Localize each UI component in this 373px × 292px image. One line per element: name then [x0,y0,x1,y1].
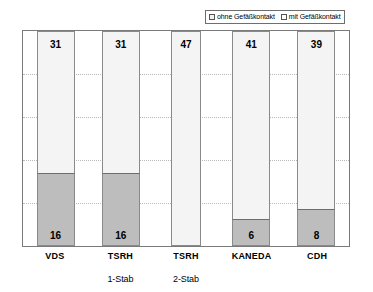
x-axis-tick-sublabel: 2-Stab [153,273,219,285]
bar-segment-ohne-gefasskontakt[interactable]: 41 [232,31,270,219]
legend-swatch-dotted-icon [209,14,215,20]
bar-segment-mit-gefasskontakt[interactable]: 8 [297,209,335,246]
bar-slot-kaneda: 41 6 [219,31,284,246]
stacked-bar[interactable]: 39 8 [297,31,335,246]
stacked-bar[interactable]: 41 6 [232,31,270,246]
bar-value-label: 8 [298,230,334,241]
stacked-bar[interactable]: 47 [171,31,201,246]
x-axis-tick-sublabel: 1-Stab [88,273,154,285]
bar-segment-ohne-gefasskontakt[interactable]: 31 [37,31,75,173]
bar-value-label: 31 [38,39,74,50]
legend-entry-ohne-gefasskontakt: ohne Gefäßkontakt [209,13,275,21]
legend-swatch-plain-icon [281,14,287,20]
legend-label: ohne Gefäßkontakt [217,13,275,21]
bar-group: 31 16 31 16 [23,31,349,246]
x-axis-labels: VDS TSRH 1-Stab TSRH 2-Stab KANEDA CDH [22,250,350,285]
bar-value-label: 39 [298,39,334,50]
legend-label: mit Gefäßkontakt [289,13,341,21]
x-axis-tick-kaneda: KANEDA [219,250,285,285]
x-axis-tick-label: CDH [284,250,350,262]
chart-legend: ohne Gefäßkontakt mit Gefäßkontakt [205,10,345,24]
bar-value-label: 6 [233,230,269,241]
bar-value-label: 41 [233,39,269,50]
x-axis-tick-tsrh-2-stab: TSRH 2-Stab [153,250,219,285]
stacked-bar[interactable]: 31 16 [37,31,75,246]
bar-value-label: 47 [172,39,200,50]
bar-value-label: 16 [38,230,74,241]
chart-container: ohne Gefäßkontakt mit Gefäßkontakt 31 16 [0,0,373,292]
x-axis-tick-label: TSRH [153,250,219,262]
plot-area: 31 16 31 16 [22,30,350,247]
bar-segment-ohne-gefasskontakt[interactable]: 47 [171,31,201,246]
bar-segment-ohne-gefasskontakt[interactable]: 39 [297,31,335,209]
bar-slot-cdh: 39 8 [284,31,349,246]
bar-segment-mit-gefasskontakt[interactable]: 6 [232,219,270,246]
bar-segment-mit-gefasskontakt[interactable]: 16 [37,173,75,246]
bar-slot-tsrh-1-stab: 31 16 [88,31,153,246]
bar-value-label: 16 [103,230,139,241]
x-axis-tick-tsrh-1-stab: TSRH 1-Stab [88,250,154,285]
x-axis-tick-vds: VDS [22,250,88,285]
bar-value-label: 31 [103,39,139,50]
bar-segment-ohne-gefasskontakt[interactable]: 31 [102,31,140,173]
bar-slot-vds: 31 16 [23,31,88,246]
x-axis-tick-label: TSRH [88,250,154,262]
x-axis-tick-label: KANEDA [219,250,285,262]
bar-segment-mit-gefasskontakt[interactable]: 16 [102,173,140,246]
x-axis-tick-label: VDS [22,250,88,262]
bar-slot-tsrh-2-stab: 47 [153,31,218,246]
x-axis-tick-cdh: CDH [284,250,350,285]
legend-entry-mit-gefasskontakt: mit Gefäßkontakt [281,13,341,21]
stacked-bar[interactable]: 31 16 [102,31,140,246]
